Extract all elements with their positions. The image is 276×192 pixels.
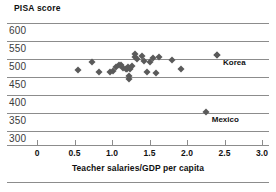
x-tick-label: 3.0: [256, 148, 268, 158]
gridline-550: [7, 41, 269, 42]
annotation-label-korea: Korea: [223, 58, 246, 67]
pisa-scatter-chart: PISA score 600550500450400350300KoreaMex…: [0, 0, 276, 192]
gridline-300: [7, 131, 269, 132]
x-axis-line: [7, 145, 269, 146]
data-point: [168, 56, 175, 63]
x-tick-label: 0: [35, 148, 40, 158]
gridline-450: [7, 77, 269, 78]
data-point-korea: [213, 51, 220, 58]
data-point: [75, 66, 82, 73]
x-tick-mark: [75, 140, 76, 145]
data-point-mexico: [202, 109, 209, 116]
gridline-600: [7, 23, 269, 24]
x-tick-mark: [187, 140, 188, 145]
x-axis-title: Teacher salaries/GDP per capita: [0, 163, 276, 173]
x-tick-label: 1.5: [144, 148, 156, 158]
x-tick-label: 2.0: [181, 148, 193, 158]
y-tick-label: 600: [9, 25, 26, 36]
data-point: [125, 76, 132, 83]
annotation-label-mexico: Mexico: [212, 115, 239, 124]
x-tick-mark: [262, 140, 263, 145]
data-point: [177, 65, 184, 72]
data-point: [95, 68, 102, 75]
x-tick-mark: [112, 140, 113, 145]
x-tick-mark: [37, 140, 38, 145]
x-tick-mark: [150, 140, 151, 145]
x-tick-mark: [225, 140, 226, 145]
y-tick-label: 350: [9, 115, 26, 126]
data-point: [152, 69, 159, 76]
y-tick-label: 400: [9, 97, 26, 108]
y-tick-label: 300: [9, 133, 26, 144]
gridline-400: [7, 95, 269, 96]
y-tick-label: 450: [9, 79, 26, 90]
x-tick-label: 2.5: [219, 148, 231, 158]
y-tick-label: 550: [9, 43, 26, 54]
data-point: [143, 68, 150, 75]
gridline-350: [7, 113, 269, 114]
data-point: [88, 59, 95, 66]
bottom-rule: [7, 182, 269, 183]
x-tick-label: 0.5: [69, 148, 81, 158]
y-tick-label: 500: [9, 61, 26, 72]
x-tick-label: 1.0: [106, 148, 118, 158]
